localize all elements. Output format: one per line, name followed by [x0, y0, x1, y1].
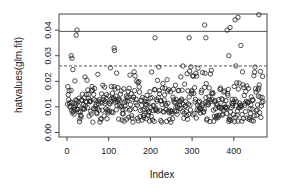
data-point [71, 67, 75, 71]
data-point [114, 108, 118, 112]
data-point [114, 71, 118, 75]
data-point [131, 120, 135, 124]
data-point [148, 90, 152, 94]
data-point [73, 79, 77, 83]
outlier-point [202, 23, 206, 27]
data-point [240, 70, 244, 74]
data-point [161, 81, 165, 85]
data-point [189, 65, 193, 69]
data-point [105, 117, 109, 121]
data-point [243, 109, 247, 113]
data-point [257, 83, 261, 87]
data-point [66, 84, 70, 88]
data-point [228, 110, 232, 114]
data-point [257, 110, 261, 114]
data-point [192, 85, 196, 89]
y-axis-label: hatvalues(glm.fit) [13, 37, 24, 113]
data-point [175, 112, 179, 116]
data-point [260, 74, 264, 78]
outlier-point [233, 18, 237, 22]
y-tick-label: 0.01 [43, 98, 53, 116]
data-point [179, 75, 183, 79]
data-point [196, 66, 200, 70]
data-point [236, 87, 240, 91]
data-point [157, 65, 161, 69]
y-tick-label: 0.04 [43, 21, 53, 39]
outlier-point [204, 36, 208, 40]
outlier-point [70, 56, 74, 60]
outlier-point [257, 13, 261, 17]
data-point [207, 86, 211, 90]
x-tick-label: 0 [64, 146, 69, 156]
data-point [185, 72, 189, 76]
data-point [155, 78, 159, 82]
data-point [187, 95, 191, 99]
data-point [261, 99, 265, 103]
outlier-point [239, 43, 243, 47]
data-point [162, 93, 166, 97]
data-point [132, 88, 136, 92]
data-point [194, 116, 198, 120]
data-point [128, 73, 132, 77]
data-point [244, 89, 248, 93]
data-point [132, 70, 136, 74]
x-tick-label: 100 [101, 146, 116, 156]
x-tick-label: 300 [185, 146, 200, 156]
data-points [65, 13, 265, 125]
data-point [96, 72, 100, 76]
outlier-point [236, 15, 240, 19]
data-point [259, 115, 263, 119]
data-point [173, 83, 177, 87]
data-point [226, 87, 230, 91]
scatter-chart: 01002003004000.000.010.020.030.04 Index … [0, 0, 287, 196]
plot-frame [59, 14, 267, 137]
data-point [99, 92, 103, 96]
data-point [194, 71, 198, 75]
outlier-point [227, 54, 231, 58]
data-point [184, 99, 188, 103]
outlier-point [228, 25, 232, 29]
data-point [182, 82, 186, 86]
data-point [128, 102, 132, 106]
data-point [204, 81, 208, 85]
y-tick-label: 0.00 [43, 124, 53, 142]
data-point [137, 90, 141, 94]
data-point [188, 108, 192, 112]
outlier-point [74, 33, 78, 37]
data-point [159, 120, 163, 124]
data-point [149, 70, 153, 74]
data-point [91, 92, 95, 96]
data-point [194, 74, 198, 78]
data-point [260, 101, 264, 105]
data-point [157, 92, 161, 96]
x-tick-label: 400 [226, 146, 241, 156]
data-point [258, 69, 262, 73]
data-point [91, 120, 95, 124]
data-point [133, 74, 137, 78]
data-point [137, 85, 141, 89]
data-point [85, 78, 89, 82]
outlier-point [153, 36, 157, 40]
x-axis-label: Index [150, 169, 174, 180]
y-tick-label: 0.03 [43, 47, 53, 65]
data-point [187, 69, 191, 73]
outlier-point [187, 36, 191, 40]
data-point [165, 77, 169, 81]
data-point [129, 107, 133, 111]
y-tick-label: 0.02 [43, 73, 53, 91]
x-tick-label: 200 [143, 146, 158, 156]
